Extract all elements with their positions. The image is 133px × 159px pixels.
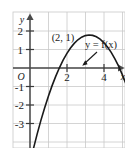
x-tick-label-2: 2 bbox=[64, 71, 70, 83]
y-tick-label-neg2: -2 bbox=[15, 99, 24, 111]
y-tick-label-1: 1 bbox=[18, 44, 24, 56]
y-tick-label-2: 2 bbox=[18, 25, 24, 37]
origin-label: O bbox=[17, 71, 24, 82]
bottom-mask bbox=[0, 148, 133, 159]
x-tick-label-4: 4 bbox=[101, 71, 107, 83]
right-mask bbox=[125, 0, 133, 159]
coordinate-plane: 2 1 -1 -2 -3 2 4 O x y (2, 1) y = f(x) bbox=[0, 0, 133, 159]
graph-figure: 2 1 -1 -2 -3 2 4 O x y (2, 1) y = f(x) bbox=[0, 0, 133, 159]
y-tick-label-neg3: -3 bbox=[15, 118, 25, 130]
vertex-label: (2, 1) bbox=[52, 32, 75, 44]
y-tick-label-neg1: -1 bbox=[15, 81, 24, 93]
function-label: y = f(x) bbox=[85, 39, 118, 51]
y-axis-name: y bbox=[19, 14, 25, 25]
